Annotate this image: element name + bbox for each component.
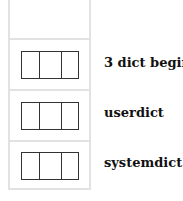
dict-cell	[22, 153, 40, 179]
label-systemdict: systemdict	[104, 155, 182, 170]
dictionary-stack	[8, 0, 91, 190]
empty-stack-slot	[10, 0, 89, 39]
dict-cell	[40, 153, 62, 179]
stack-slot-2	[10, 89, 89, 140]
label-userdict: userdict	[104, 105, 164, 120]
dict-cell	[62, 103, 78, 129]
dict-cell	[40, 103, 62, 129]
dictionary-box	[21, 152, 79, 180]
dict-cell	[62, 52, 78, 78]
stack-slot-1	[10, 38, 89, 89]
dict-cell	[22, 103, 40, 129]
dictionary-box	[21, 102, 79, 130]
dictionary-box	[21, 51, 79, 79]
stack-slot-3	[10, 140, 89, 188]
dict-cell	[22, 52, 40, 78]
dict-cell	[62, 153, 78, 179]
dict-cell	[40, 52, 62, 78]
label-3-dict-begin: 3 dict begin	[104, 55, 183, 70]
